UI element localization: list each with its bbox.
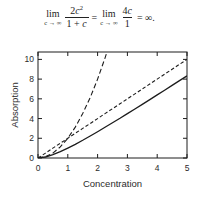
- figure: lim c → ∞ 2c2 1 + c = lim c → ∞ 4c 1 = ∞…: [0, 0, 199, 197]
- y-axis-label: Absorption: [9, 82, 20, 127]
- axes-box: [38, 52, 187, 158]
- series-line-1: [38, 59, 187, 158]
- x-tick-label: 1: [65, 163, 70, 173]
- x-tick-label: 4: [155, 163, 160, 173]
- y-tick-label: 8: [29, 74, 34, 84]
- x-tick-label: 2: [95, 163, 100, 173]
- x-tick-label: 3: [125, 163, 130, 173]
- x-tick-label: 0: [36, 163, 41, 173]
- series-line-0: [38, 76, 187, 158]
- x-tick-label: 5: [185, 163, 190, 173]
- x-axis-label: Concentration: [83, 178, 142, 189]
- y-tick-label: 6: [29, 94, 34, 104]
- y-tick-label: 0: [29, 153, 34, 163]
- series-line-2: [38, 0, 187, 158]
- y-tick-label: 10: [25, 54, 34, 64]
- y-tick-label: 4: [29, 114, 34, 124]
- y-tick-label: 2: [29, 133, 34, 143]
